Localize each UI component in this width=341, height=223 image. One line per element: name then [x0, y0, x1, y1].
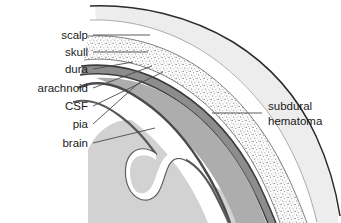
- label-subdural-hematoma-line1: subdural: [268, 100, 312, 112]
- label-scalp: scalp: [61, 29, 88, 41]
- label-dura: dura: [65, 63, 89, 75]
- label-pia: pia: [73, 118, 89, 130]
- label-subdural-hematoma-line2: hematoma: [268, 115, 323, 127]
- subdural-hematoma-figure: scalp skull dura arachnoid CSF pia brain…: [0, 0, 341, 223]
- anatomy-diagram: scalp skull dura arachnoid CSF pia brain…: [0, 0, 341, 223]
- label-csf: CSF: [65, 100, 88, 112]
- label-brain: brain: [62, 137, 88, 149]
- label-arachnoid: arachnoid: [37, 82, 88, 94]
- label-skull: skull: [65, 46, 88, 58]
